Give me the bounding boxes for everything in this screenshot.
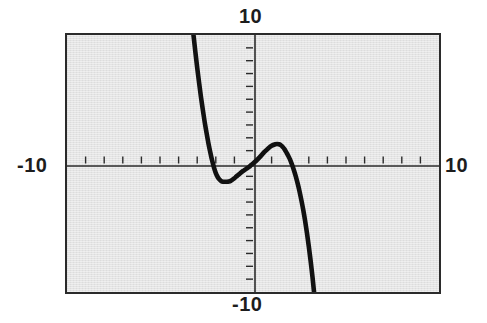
y-axis-max-label: 10 [239, 6, 262, 26]
x-axis-max-label: 10 [445, 155, 468, 175]
plot-canvas [67, 35, 439, 292]
y-axis-min-label: -10 [232, 294, 262, 314]
graph-figure: 10 -10 -10 10 [0, 0, 487, 323]
x-axis-min-label: -10 [17, 155, 47, 175]
plot-frame [65, 33, 441, 294]
cubic-curve [193, 35, 314, 292]
